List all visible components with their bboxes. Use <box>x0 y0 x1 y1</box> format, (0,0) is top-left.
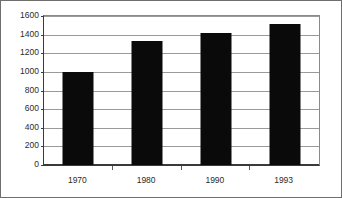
bar-slot-1980 <box>113 16 182 165</box>
y-tick-label-800: 800 <box>25 85 39 94</box>
y-tick-label-1200: 1200 <box>20 48 39 57</box>
x-tick-mark-3 <box>249 166 250 170</box>
y-tick-label-400: 400 <box>25 123 39 132</box>
plot-area <box>43 15 320 166</box>
x-tick-label-1993: 1993 <box>274 176 293 185</box>
bar-1980 <box>132 41 163 165</box>
x-tick-label-1990: 1990 <box>205 176 224 185</box>
x-tick-label-1980: 1980 <box>137 176 156 185</box>
bar-slot-1993 <box>250 16 319 165</box>
bars-group <box>44 16 319 165</box>
bar-chart-figure: 02004006008001000120014001600 1970198019… <box>0 0 342 198</box>
bar-slot-1970 <box>44 16 113 165</box>
y-tick-label-600: 600 <box>25 104 39 113</box>
y-tick-label-1400: 1400 <box>20 29 39 38</box>
y-tick-label-1600: 1600 <box>20 11 39 20</box>
y-tick-mark-0 <box>41 165 44 166</box>
bar-1970 <box>63 72 94 165</box>
y-tick-label-0: 0 <box>34 160 39 169</box>
bar-1993 <box>269 24 300 165</box>
y-axis-labels: 02004006008001000120014001600 <box>1 15 39 166</box>
x-tick-mark-1 <box>112 166 113 170</box>
bar-1990 <box>200 33 231 165</box>
y-tick-label-1000: 1000 <box>20 67 39 76</box>
x-tick-label-1970: 1970 <box>68 176 87 185</box>
x-tick-mark-2 <box>181 166 182 170</box>
bar-slot-1990 <box>182 16 251 165</box>
y-tick-label-200: 200 <box>25 141 39 150</box>
